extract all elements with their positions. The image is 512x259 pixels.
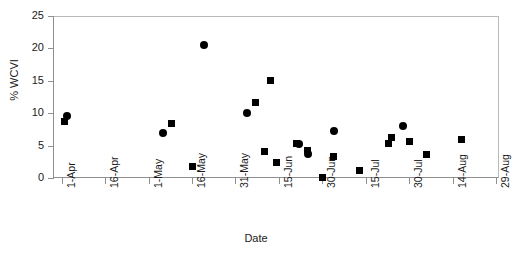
x-axis-tick	[409, 178, 410, 184]
data-point-square	[423, 151, 430, 158]
data-point-square	[267, 77, 274, 84]
y-axis-tick	[48, 146, 54, 147]
x-axis-tick-label: 30-Jul	[413, 159, 423, 188]
x-axis-tick	[366, 178, 367, 184]
data-point-circle	[304, 150, 312, 158]
data-point-square	[261, 148, 268, 155]
x-axis-tick	[279, 178, 280, 184]
data-point-square	[330, 153, 337, 160]
x-axis-tick-label: 1-May	[153, 159, 163, 188]
x-axis-tick-label: 15-Jul	[370, 159, 380, 188]
x-axis-tick	[235, 178, 236, 184]
data-point-circle	[295, 140, 303, 148]
y-axis-tick-label: 25	[0, 10, 44, 21]
data-point-square	[252, 99, 259, 106]
y-axis-tick	[48, 48, 54, 49]
y-axis-tick-label: 15	[0, 75, 44, 86]
x-axis-tick	[105, 178, 106, 184]
data-point-square	[406, 138, 413, 145]
data-point-square	[189, 163, 196, 170]
data-point-circle	[330, 127, 338, 135]
x-axis-tick-label: 30-Jun	[326, 156, 336, 188]
plot-area	[53, 16, 499, 178]
data-point-square	[273, 159, 280, 166]
x-axis-tick-label: 31-May	[239, 153, 249, 188]
data-point-square	[168, 120, 175, 127]
data-point-circle	[200, 41, 208, 49]
y-axis-tick	[48, 178, 54, 179]
x-axis-title: Date	[0, 232, 512, 244]
y-axis-tick	[48, 113, 54, 114]
y-axis-tick	[48, 16, 54, 17]
scatter-chart-figure: % WCVI 05101520251-Apr16-Apr1-May16-May3…	[0, 0, 512, 259]
data-point-square	[385, 140, 392, 147]
x-axis-tick	[62, 178, 63, 184]
y-axis-tick-label: 5	[0, 140, 44, 151]
x-axis-tick	[496, 178, 497, 184]
x-axis-tick-label: 16-Apr	[109, 156, 119, 188]
x-axis-tick	[192, 178, 193, 184]
y-axis-tick-label: 20	[0, 42, 44, 53]
x-axis-tick-label: 29-Aug	[500, 154, 510, 188]
x-axis-tick	[149, 178, 150, 184]
x-axis-tick-label: 16-May	[196, 153, 206, 188]
data-point-square	[458, 136, 465, 143]
y-axis-tick-label: 0	[0, 172, 44, 183]
y-axis-tick	[48, 81, 54, 82]
x-axis-tick-label: 1-Apr	[66, 162, 76, 188]
x-axis-tick-label: 15-Jun	[283, 156, 293, 188]
x-axis-tick	[453, 178, 454, 184]
x-axis-tick-label: 14-Aug	[457, 154, 467, 188]
data-point-square	[319, 174, 326, 181]
y-axis-tick-label: 10	[0, 107, 44, 118]
data-point-square	[356, 167, 363, 174]
data-point-circle	[159, 129, 167, 137]
